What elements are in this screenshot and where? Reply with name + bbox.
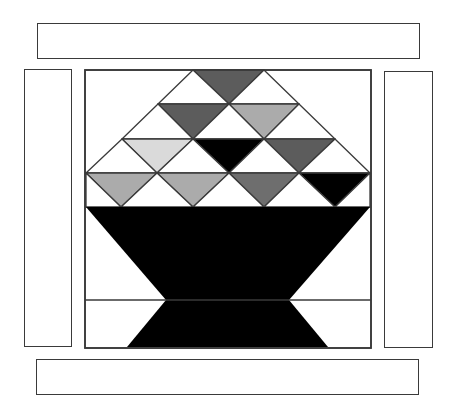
basket-quilt-block — [0, 0, 449, 411]
